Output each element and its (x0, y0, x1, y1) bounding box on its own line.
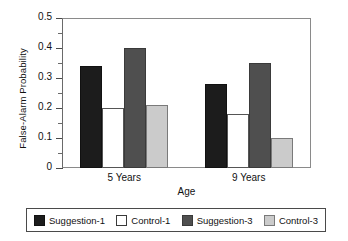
bar-series-layer (62, 18, 311, 168)
y-tick-label: 0.3 (12, 72, 52, 82)
y-tick-label: 0 (12, 162, 52, 172)
y-tick-label: 0.5 (12, 12, 52, 22)
bar-suggestion-1-5-years (80, 66, 102, 168)
chart-figure: False-Alarm Probability 00.10.20.30.40.5… (0, 0, 348, 241)
x-tick-label: 5 Years (79, 172, 169, 183)
y-tick-label: 0.1 (12, 132, 52, 142)
bar-suggestion-3-9-years (249, 63, 271, 168)
bar-control-1-9-years (227, 114, 249, 168)
y-tick-label: 0.2 (12, 102, 52, 112)
bar-control-1-5-years (102, 108, 124, 168)
legend-label: Suggestion-3 (197, 215, 253, 226)
legend-label: Suggestion-1 (49, 215, 105, 226)
legend-label: Control-1 (131, 215, 170, 226)
x-tick-label: 9 Years (204, 172, 294, 183)
legend-swatch-icon (264, 215, 275, 226)
legend-label: Control-3 (279, 215, 318, 226)
bar-control-3-9-years (271, 138, 293, 168)
bar-control-3-5-years (146, 105, 168, 168)
legend-swatch-icon (116, 215, 127, 226)
legend-item-control-1[interactable]: Control-1 (116, 215, 170, 226)
y-tick-major (56, 168, 63, 169)
legend-item-suggestion-1[interactable]: Suggestion-1 (34, 215, 105, 226)
legend-swatch-icon (34, 215, 45, 226)
legend-swatch-icon (182, 215, 193, 226)
legend-item-control-3[interactable]: Control-3 (264, 215, 318, 226)
x-axis-title: Age (62, 186, 311, 197)
bar-suggestion-1-9-years (205, 84, 227, 168)
chart-legend: Suggestion-1Control-1Suggestion-3Control… (26, 208, 326, 232)
y-tick-label: 0.4 (12, 42, 52, 52)
bar-suggestion-3-5-years (124, 48, 146, 168)
legend-item-suggestion-3[interactable]: Suggestion-3 (182, 215, 253, 226)
